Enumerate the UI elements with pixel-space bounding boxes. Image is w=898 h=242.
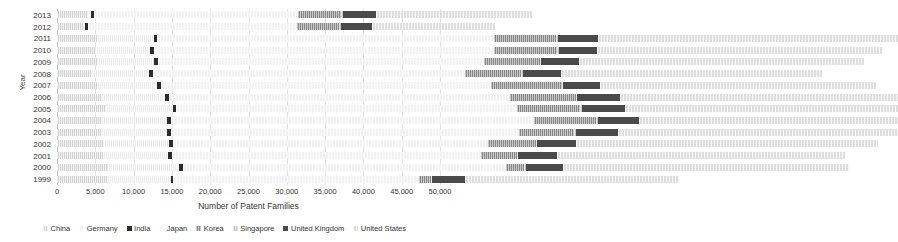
legend-item-china[interactable]: China [43,224,70,233]
bar-segment-japan[interactable] [171,129,519,136]
bar-segment-united-states[interactable] [639,117,898,124]
bar-segment-korea[interactable] [517,105,580,112]
legend-item-united-kingdom[interactable]: United Kingdom [283,224,344,233]
bar-segment-united-states[interactable] [561,70,822,77]
bar-segment-united-states[interactable] [620,94,898,101]
stacked-bar[interactable] [57,129,898,136]
bar-segment-japan[interactable] [161,82,490,89]
legend-item-korea[interactable]: Korea [196,224,224,233]
bar-segment-united-states[interactable] [372,23,495,30]
bar-segment-japan[interactable] [158,58,484,65]
bar-segment-germany[interactable] [104,140,169,147]
stacked-bar[interactable] [57,82,876,89]
legend-item-united-states[interactable]: United States [353,224,406,233]
bar-segment-united-states[interactable] [576,140,878,147]
bar-segment-united-kingdom[interactable] [577,94,620,101]
bar-segment-united-states[interactable] [618,129,898,136]
bar-segment-china[interactable] [57,94,101,101]
bar-segment-china[interactable] [57,23,83,30]
bar-segment-united-kingdom[interactable] [598,117,639,124]
bar-segment-japan[interactable] [169,94,511,101]
stacked-bar[interactable] [57,105,898,112]
bar-segment-united-states[interactable] [557,152,845,159]
bar-segment-korea[interactable] [298,11,341,18]
bar-segment-united-kingdom[interactable] [541,58,579,65]
bar-segment-united-states[interactable] [625,105,898,112]
bar-segment-germany[interactable] [96,47,150,54]
bar-segment-united-states[interactable] [465,176,679,183]
bar-segment-china[interactable] [57,129,101,136]
stacked-bar[interactable] [57,176,679,183]
bar-segment-germany[interactable] [97,82,158,89]
legend-item-india[interactable]: India [127,224,151,233]
bar-segment-germany[interactable] [107,176,171,183]
bar-segment-united-states[interactable] [600,82,876,89]
bar-segment-korea[interactable] [488,140,535,147]
bar-segment-germany[interactable] [91,70,149,77]
bar-segment-japan[interactable] [183,164,506,171]
bar-segment-united-kingdom[interactable] [518,152,557,159]
bar-segment-china[interactable] [57,82,97,89]
bar-segment-united-kingdom[interactable] [563,82,600,89]
bar-segment-japan[interactable] [153,70,466,77]
stacked-bar[interactable] [57,164,849,171]
bar-segment-germany[interactable] [97,35,154,42]
bar-segment-united-states[interactable] [376,11,533,18]
bar-segment-united-kingdom[interactable] [432,176,465,183]
bar-segment-japan[interactable] [173,176,418,183]
stacked-bar[interactable] [57,35,898,42]
stacked-bar[interactable] [57,94,898,101]
bar-segment-united-kingdom[interactable] [559,47,597,54]
bar-segment-china[interactable] [57,117,101,124]
bar-segment-china[interactable] [57,164,108,171]
bar-segment-korea[interactable] [491,82,562,89]
bar-segment-japan[interactable] [171,117,534,124]
bar-segment-korea[interactable] [484,58,540,65]
legend-item-germany[interactable]: Germany [79,224,117,233]
bar-segment-korea[interactable] [419,176,431,183]
bar-segment-china[interactable] [57,105,106,112]
bar-segment-germany[interactable] [101,117,167,124]
legend-item-japan[interactable]: Japan [159,224,187,233]
bar-segment-germany[interactable] [108,164,178,171]
bar-segment-united-kingdom[interactable] [526,164,564,171]
bar-segment-united-kingdom[interactable] [582,105,625,112]
bar-segment-japan[interactable] [173,140,489,147]
stacked-bar[interactable] [57,70,822,77]
bar-segment-china[interactable] [57,58,98,65]
bar-segment-germany[interactable] [106,105,173,112]
bar-segment-korea[interactable] [510,94,575,101]
stacked-bar[interactable] [57,117,898,124]
bar-segment-japan[interactable] [176,105,517,112]
bar-segment-japan[interactable] [157,35,494,42]
stacked-bar[interactable] [57,11,533,18]
bar-segment-united-kingdom[interactable] [576,129,618,136]
bar-segment-united-kingdom[interactable] [343,11,376,18]
bar-segment-germany[interactable] [103,152,168,159]
bar-segment-germany[interactable] [101,94,165,101]
stacked-bar[interactable] [57,47,883,54]
legend-item-singapore[interactable]: Singapore [233,224,275,233]
bar-segment-united-kingdom[interactable] [558,35,598,42]
bar-segment-korea[interactable] [481,152,516,159]
bar-segment-united-kingdom[interactable] [341,23,372,30]
bar-segment-china[interactable] [57,47,96,54]
bar-segment-germany[interactable] [101,129,167,136]
bar-segment-china[interactable] [57,152,103,159]
bar-segment-united-states[interactable] [597,47,883,54]
bar-segment-japan[interactable] [154,47,494,54]
bar-segment-united-states[interactable] [579,58,864,65]
bar-segment-united-states[interactable] [563,164,849,171]
bar-segment-china[interactable] [57,11,88,18]
bar-segment-united-kingdom[interactable] [537,140,576,147]
bar-segment-japan[interactable] [88,23,297,30]
bar-segment-korea[interactable] [534,117,596,124]
bar-segment-korea[interactable] [519,129,574,136]
stacked-bar[interactable] [57,152,845,159]
bar-segment-china[interactable] [57,176,107,183]
stacked-bar[interactable] [57,23,495,30]
stacked-bar[interactable] [57,58,864,65]
bar-segment-korea[interactable] [506,164,524,171]
bar-segment-china[interactable] [57,140,104,147]
bar-segment-united-kingdom[interactable] [523,70,561,77]
